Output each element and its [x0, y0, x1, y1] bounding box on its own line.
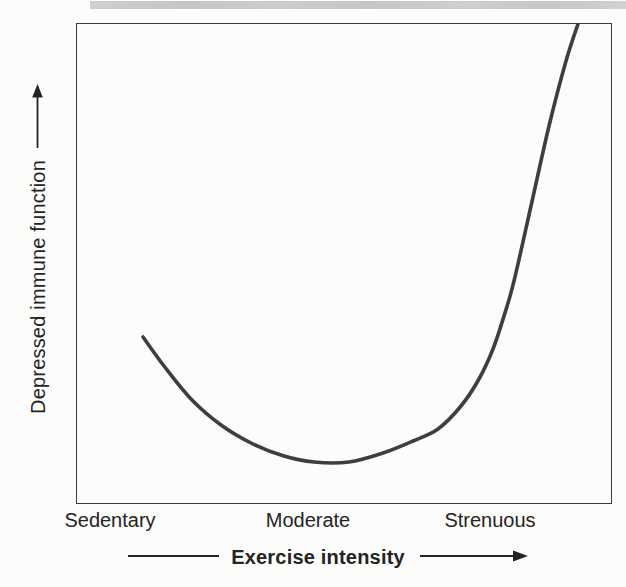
x-tick-strenuous: Strenuous: [444, 509, 535, 532]
y-axis-up-arrow-icon: [30, 84, 45, 151]
x-tick-moderate: Moderate: [266, 509, 351, 532]
x-tick-sedentary: Sedentary: [64, 509, 155, 532]
x-axis-leader-line: [128, 555, 219, 557]
plot-area: [76, 23, 612, 504]
figure-canvas: Depressed immune function Sedentary Mode…: [0, 0, 626, 587]
x-axis-right-arrow-icon: [420, 549, 528, 563]
scan-artifact-band: [90, 1, 626, 9]
x-axis-label: Exercise intensity: [231, 546, 405, 569]
immune-function-curve: [77, 24, 611, 503]
y-axis-label: Depressed immune function: [27, 160, 50, 414]
